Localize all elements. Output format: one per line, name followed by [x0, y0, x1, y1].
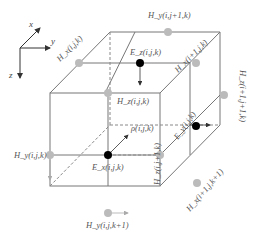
- axis-z-label: z: [8, 70, 13, 80]
- label-hy-top: H_y(i,j+1,k): [147, 10, 191, 20]
- label-hz-right: H_z(i+1,j+1,k): [238, 69, 248, 122]
- hy-top-node: [164, 28, 172, 36]
- axis-triad: x y z: [8, 19, 55, 80]
- label-hx-bottom: H_x(i+1,j,k+1): [183, 166, 225, 214]
- hy-bottom-node: [104, 209, 112, 217]
- hz-right-node: [220, 91, 228, 99]
- label-hz-front: H_z(i,j+1,k): [152, 143, 162, 186]
- rho-arrow: [108, 135, 128, 155]
- axis-x-label: x: [28, 19, 33, 29]
- label-hz: H_z(i,j,k): [116, 96, 149, 106]
- ey-node: [192, 122, 200, 130]
- hz-node: [104, 89, 112, 97]
- hx-bottom-node: [193, 179, 201, 187]
- ez-node: [136, 59, 144, 67]
- label-ez: E_z(i,j,k): [129, 47, 161, 57]
- ex-node: [104, 151, 112, 159]
- yee-cell-diagram: x y z: [0, 0, 256, 242]
- label-hy-left: H_y(i,j,k): [13, 150, 47, 160]
- label-rho: ρ(i,j,k): [130, 123, 154, 133]
- label-ex: E_x(i,j,k): [91, 162, 124, 172]
- label-hx-right: H_x(i+1,j,k): [172, 37, 210, 75]
- hx-node: [75, 59, 83, 67]
- axis-y-label: y: [50, 36, 55, 46]
- label-hy-bottom: H_y(i,j,k+1): [85, 220, 129, 230]
- hy-left-node: [46, 151, 54, 159]
